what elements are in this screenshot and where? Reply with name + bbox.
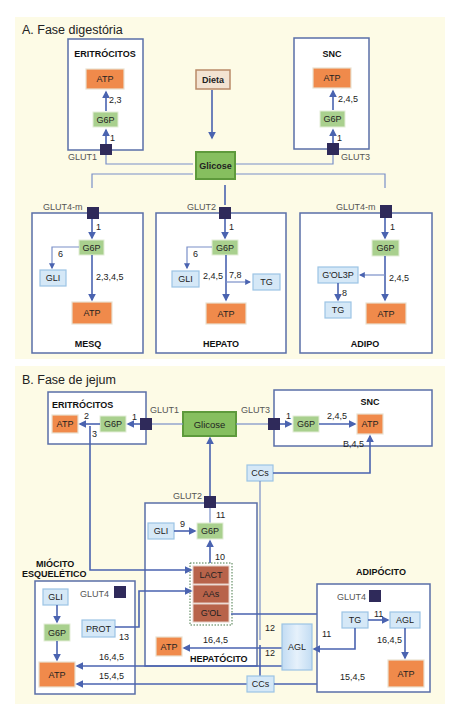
cell-snc-a: SNC ATP G6P 2,4,5 1 GLUT3 — [294, 38, 370, 162]
g6p-label: G6P — [216, 243, 234, 253]
step-label: 3 — [92, 429, 97, 439]
cell-label: MESQ — [75, 339, 102, 349]
glicose-label: Glicose — [194, 419, 226, 430]
step-label: 11 — [216, 510, 225, 520]
cell-label: SNC — [360, 397, 380, 407]
step-label: B,4,5 — [343, 439, 364, 449]
atp-label: ATP — [218, 309, 235, 319]
glut-label: GLUT1 — [150, 405, 179, 415]
g6p-label: G6P — [323, 114, 341, 124]
atp-label: ATP — [84, 308, 101, 318]
step-label: 12 — [265, 648, 275, 658]
g6p-label: G6P — [96, 115, 114, 125]
step-label: 15,4,5 — [99, 671, 124, 681]
cell-label: ADIPÓCITO — [356, 566, 406, 577]
agl-label: AGL — [396, 615, 414, 625]
aas-label: AAs — [203, 589, 220, 599]
ccs-label: CCs — [251, 468, 269, 478]
panel-a-title: A. Fase digestória — [22, 23, 123, 37]
tg-label: TG — [349, 615, 362, 625]
panel-b-title: B. Fase de jejum — [22, 373, 116, 387]
cell-label: HEPATO — [203, 339, 239, 349]
glut-label: GLUT3 — [341, 152, 370, 162]
glut-label: GLUT1 — [68, 152, 97, 162]
step-label: 15,4,5 — [340, 672, 365, 682]
step-label: 1 — [96, 222, 101, 232]
glut2-transporter-icon — [204, 496, 216, 508]
step-label: 2,4,5 — [203, 271, 223, 281]
cell-label: ADIPO — [351, 339, 380, 349]
prot-label: PROT — [86, 624, 112, 634]
gli-label: GLI — [46, 273, 61, 283]
ccs-label: CCs — [252, 679, 270, 689]
step-label: 10 — [215, 552, 225, 562]
cell-label: HEPATÓCITO — [190, 653, 248, 664]
step-label: 1 — [337, 133, 342, 143]
step-label: 6 — [193, 249, 198, 259]
panel-b-fasting-phase: B. Fase de jejum ERITRÓCITOS ATP G6P 2 3… — [15, 366, 445, 704]
step-label: 2,3,4,5 — [96, 272, 124, 282]
gol3p-label: G'OL3P — [322, 270, 354, 280]
g6p-label: G6P — [201, 526, 219, 536]
g6p-label: G6P — [48, 628, 66, 638]
cell-label: MIÓCITO — [36, 558, 74, 569]
tg-label: TG — [260, 277, 273, 287]
step-label: 16,4,5 — [377, 635, 402, 645]
atp-label: ATP — [398, 669, 415, 679]
glut-label: GLUT3 — [241, 405, 270, 415]
glut4-transporter-icon — [114, 586, 126, 598]
step-label: 2,3 — [109, 95, 122, 105]
glut-label: GLUT4-m — [43, 202, 83, 212]
glut4-transporter-icon — [369, 590, 381, 602]
glut4m-transporter-icon — [380, 205, 392, 218]
glut1-transporter-icon — [100, 144, 112, 155]
step-label: 11 — [322, 629, 331, 639]
step-label: 16,4,5 — [99, 652, 124, 662]
panel-a-digestive-phase: A. Fase digestória ERITRÓCITOS ATP G6P 2… — [15, 17, 445, 359]
step-label: 16,4,5 — [203, 635, 228, 645]
step-label: 2,4,5 — [327, 411, 347, 421]
tg-label: TG — [332, 305, 345, 315]
step-label: 2 — [84, 411, 89, 421]
cell-label: ESQUELÉTICO — [22, 569, 87, 579]
step-label: 1 — [229, 222, 234, 232]
atp-label: ATP — [362, 419, 379, 429]
glicose-label: Glicose — [199, 161, 232, 171]
atp-label: ATP — [324, 73, 341, 83]
gli-label: GLI — [178, 274, 193, 284]
g6p-label: G6P — [297, 419, 315, 429]
glut-label: GLUT4 — [80, 589, 109, 599]
cell-label: ERITRÓCITOS — [74, 48, 135, 59]
step-label: 13 — [119, 632, 129, 642]
step-label: 6 — [58, 249, 63, 259]
glut-label: GLUT2 — [187, 202, 216, 212]
step-label: 11 — [374, 609, 383, 619]
glut3-transporter-icon — [268, 418, 280, 430]
atp-label: ATP — [57, 419, 74, 429]
cell-adipo: GLUT4-m 1 G6P 2,4,5 G'OL3P 8 TG ATP ADIP… — [300, 202, 432, 353]
metabolism-diagram: A. Fase digestória ERITRÓCITOS ATP G6P 2… — [0, 0, 460, 710]
step-label: 2,4,5 — [389, 273, 409, 283]
atp-label: ATP — [161, 642, 178, 652]
g6p-label: G6P — [376, 243, 394, 253]
gol-label: G'OL — [201, 608, 222, 618]
glut1-transporter-icon — [140, 418, 152, 430]
step-label: 1 — [132, 412, 137, 422]
glut-label: GLUT4-m — [336, 202, 376, 212]
step-label: 9 — [180, 519, 185, 529]
lact-label: LACT — [199, 570, 223, 580]
cell-adipocito: ADIPÓCITO GLUT4 TG 11 AGL 16,4,5 ATP 11 … — [314, 566, 430, 692]
gli-label: GLI — [48, 592, 63, 602]
cell-eritrocitos-a: ERITRÓCITOS ATP G6P 2,3 1 GLUT1 — [68, 39, 143, 162]
gli-label: GLI — [154, 526, 169, 536]
step-label: 8 — [342, 288, 347, 298]
glut-label: GLUT2 — [173, 491, 202, 501]
cell-label: SNC — [322, 49, 342, 59]
dieta-label: Dieta — [202, 75, 225, 85]
step-label: 1 — [286, 411, 291, 421]
cell-mesq: GLUT4-m 1 G6P 6 GLI 2,3,4,5 ATP MESQ — [32, 202, 143, 353]
cell-hepato: GLUT2 1 G6P 6 GLI 2,4,5 7,8 TG ATP HEPAT… — [156, 202, 286, 353]
atp-label: ATP — [97, 74, 114, 84]
glut3-transporter-icon — [327, 143, 339, 155]
step-label: 2,4,5 — [338, 94, 358, 104]
